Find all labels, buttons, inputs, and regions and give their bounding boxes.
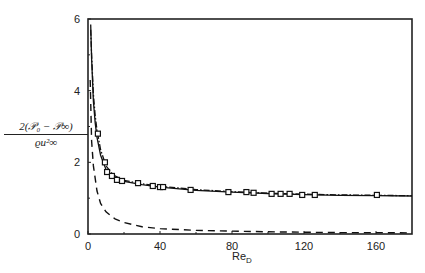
x-tick-label: 160	[367, 240, 385, 252]
data-marker-square	[312, 192, 317, 197]
y-axis-label: 2(𝒫₀ − 𝒫∞) ϱu²∞	[4, 120, 88, 148]
solid-curve	[91, 24, 412, 196]
x-tick-label: 120	[295, 240, 313, 252]
data-marker-square	[244, 190, 249, 195]
x-label-sub: D	[246, 256, 252, 265]
data-marker-square	[105, 170, 110, 175]
dashed-curve	[90, 80, 412, 233]
data-marker-square	[136, 181, 141, 186]
data-marker-square	[109, 173, 114, 178]
data-marker-square	[269, 191, 274, 196]
data-marker-square	[374, 192, 379, 197]
data-marker-square	[226, 190, 231, 195]
y-tick-label: 4	[74, 85, 80, 97]
data-marker-square	[95, 131, 100, 136]
data-marker-square	[278, 191, 283, 196]
y-tick-label: 0	[74, 228, 80, 240]
data-marker-square	[102, 160, 107, 165]
data-marker-square	[251, 190, 256, 195]
y-label-denominator: ϱu²∞	[4, 135, 88, 148]
data-marker-square	[120, 178, 125, 183]
dashdot-curve	[91, 30, 412, 196]
axis-ticks: 040801201600246	[74, 13, 385, 252]
x-tick-label: 0	[85, 240, 91, 252]
data-marker-square	[287, 191, 292, 196]
y-tick-label: 6	[74, 13, 80, 25]
data-marker-square	[114, 177, 119, 182]
data-marker-square	[150, 183, 155, 188]
x-axis-label: ReD	[232, 250, 252, 265]
x-label-main: Re	[232, 250, 246, 262]
y-tick-label: 2	[74, 156, 80, 168]
data-series	[90, 24, 412, 233]
plot-border	[88, 19, 412, 234]
plot-frame	[88, 19, 412, 234]
data-marker-square	[300, 192, 305, 197]
data-marker-square	[161, 185, 166, 190]
y-label-numerator: 2(𝒫₀ − 𝒫∞)	[4, 120, 88, 135]
x-tick-label: 40	[154, 240, 166, 252]
data-marker-square	[188, 187, 193, 192]
